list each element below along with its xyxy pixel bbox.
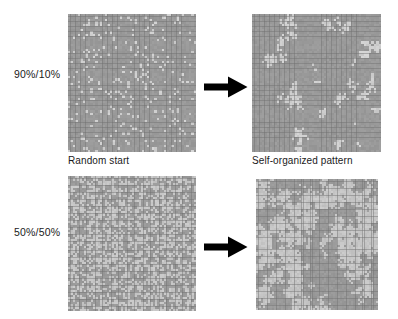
- grid-90-10-random-start: [68, 14, 196, 152]
- caption-random-start: Random start: [68, 155, 129, 166]
- grid-50-50-self-organized: [256, 179, 378, 310]
- grid-90-10-self-organized: [252, 14, 381, 152]
- schelling-segregation-figure: 90%/10% 50%/50% Random start Self-organi…: [0, 0, 398, 319]
- row-label-ratio-50-50: 50%/50%: [14, 226, 60, 238]
- caption-self-organized-pattern: Self-organized pattern: [252, 155, 353, 166]
- arrow-right-icon: [204, 76, 248, 98]
- row-label-ratio-90-10: 90%/10%: [14, 68, 60, 80]
- grid-50-50-random-start: [68, 176, 196, 311]
- arrow-right-icon: [204, 236, 248, 258]
